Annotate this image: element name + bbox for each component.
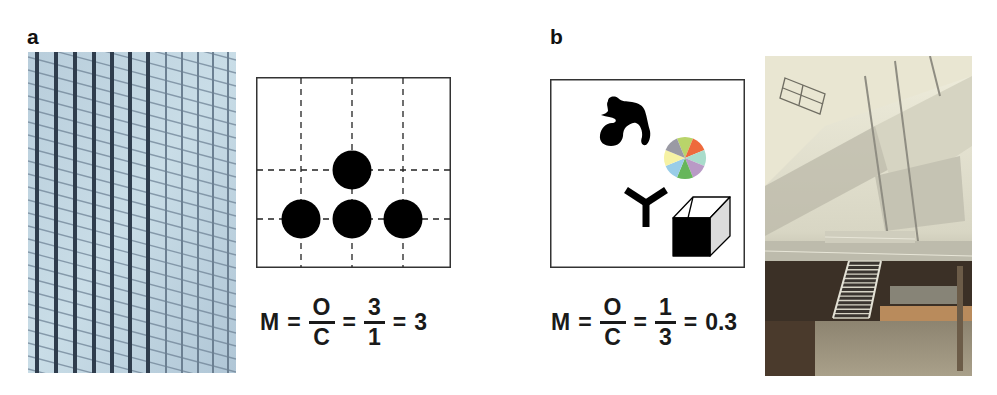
equals-sign: = (393, 309, 406, 336)
dissimilar-objects-diagram (550, 79, 745, 268)
equals-sign: = (343, 309, 356, 336)
equals-sign: = (634, 309, 647, 336)
equals-sign: = (578, 309, 591, 336)
aligned-objects-diagram (256, 77, 451, 268)
numerator: O (600, 296, 626, 324)
denominator: 3 (659, 324, 672, 349)
denominator: 1 (368, 324, 381, 349)
equation-result: 0.3 (705, 309, 737, 336)
equation-lhs: M (551, 309, 570, 336)
denominator: C (313, 324, 330, 349)
numerator: 3 (364, 296, 385, 324)
equals-sign: = (287, 309, 300, 336)
atrium-photo (765, 56, 972, 376)
equation-b: M = O C = 1 3 = 0.3 (551, 296, 737, 349)
fraction-values: 3 1 (364, 296, 385, 349)
circle-object (333, 151, 372, 190)
circle-object (333, 200, 372, 239)
facade-photo (28, 52, 236, 373)
denominator: C (604, 324, 621, 349)
circle-object (384, 200, 423, 239)
panel-label-b: b (550, 26, 563, 47)
equation-result: 3 (414, 309, 427, 336)
numerator: O (309, 296, 335, 324)
color-wheel-object (664, 137, 706, 179)
panel-label-a: a (27, 26, 39, 47)
equation-lhs: M (260, 309, 279, 336)
equation-a: M = O C = 3 1 = 3 (260, 296, 427, 349)
numerator: 1 (655, 296, 676, 324)
circle-object (282, 200, 321, 239)
fraction-values: 1 3 (655, 296, 676, 349)
fraction-o-over-c: O C (309, 296, 335, 349)
equals-sign: = (684, 309, 697, 336)
fraction-o-over-c: O C (600, 296, 626, 349)
